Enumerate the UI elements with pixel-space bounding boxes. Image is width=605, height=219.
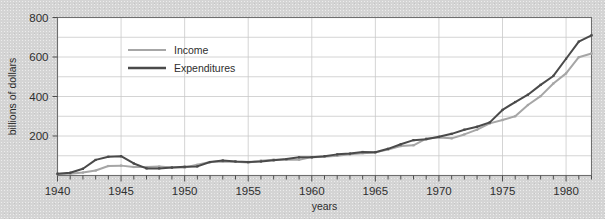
- series-marker-income: [451, 137, 453, 139]
- series-marker-income: [82, 171, 84, 173]
- legend-label-expenditures: Expenditures: [174, 62, 235, 74]
- series-marker-expenditures: [260, 160, 262, 162]
- series-marker-expenditures: [387, 148, 389, 150]
- series-marker-income: [298, 159, 300, 161]
- y-axis-label: billions of dollars: [6, 58, 18, 136]
- series-marker-expenditures: [82, 168, 84, 170]
- y-tick-label: 800: [29, 12, 48, 24]
- series-marker-expenditures: [107, 156, 109, 158]
- series-marker-expenditures: [540, 84, 542, 86]
- series-marker-expenditures: [489, 121, 491, 123]
- series-marker-expenditures: [451, 133, 453, 135]
- series-marker-expenditures: [552, 75, 554, 77]
- series-marker-expenditures: [514, 101, 516, 103]
- series-marker-income: [565, 72, 567, 74]
- series-marker-expenditures: [400, 143, 402, 145]
- series-marker-income: [514, 115, 516, 117]
- series-marker-expenditures: [209, 161, 211, 163]
- series-marker-expenditures: [374, 151, 376, 153]
- series-marker-income: [412, 144, 414, 146]
- series-marker-expenditures: [285, 158, 287, 160]
- x-tick-label: 1970: [426, 185, 452, 197]
- series-marker-expenditures: [578, 40, 580, 42]
- series-marker-expenditures: [171, 167, 173, 169]
- y-tick-label: 600: [29, 51, 48, 63]
- series-marker-expenditures: [323, 155, 325, 157]
- series-marker-income: [133, 166, 135, 168]
- series-marker-expenditures: [590, 34, 592, 36]
- series-marker-expenditures: [438, 136, 440, 138]
- series-marker-expenditures: [336, 153, 338, 155]
- x-axis-label: years: [312, 200, 338, 212]
- series-marker-expenditures: [425, 138, 427, 140]
- series-marker-expenditures: [298, 156, 300, 158]
- series-marker-expenditures: [184, 166, 186, 168]
- x-tick-label: 1965: [363, 185, 389, 197]
- series-marker-income: [527, 104, 529, 106]
- series-marker-expenditures: [133, 162, 135, 164]
- series-marker-income: [540, 95, 542, 97]
- series-marker-expenditures: [311, 156, 313, 158]
- series-marker-income: [463, 133, 465, 135]
- series-marker-expenditures: [476, 126, 478, 128]
- series-marker-income: [501, 119, 503, 121]
- series-marker-expenditures: [463, 129, 465, 131]
- x-tick-label: 1955: [235, 185, 261, 197]
- series-marker-income: [95, 169, 97, 171]
- legend-label-income: Income: [174, 44, 209, 56]
- line-chart-svg: 1940194519501955196019651970197519802004…: [0, 0, 605, 219]
- series-marker-expenditures: [69, 172, 71, 174]
- x-tick-label: 1960: [299, 185, 325, 197]
- series-marker-expenditures: [565, 58, 567, 60]
- series-marker-expenditures: [527, 94, 529, 96]
- series-marker-income: [107, 165, 109, 167]
- series-marker-expenditures: [95, 159, 97, 161]
- series-marker-expenditures: [158, 167, 160, 169]
- series-marker-income: [578, 56, 580, 58]
- series-marker-expenditures: [234, 160, 236, 162]
- x-tick-label: 1940: [45, 185, 71, 197]
- series-marker-expenditures: [145, 167, 147, 169]
- series-marker-income: [120, 165, 122, 167]
- x-tick-label: 1950: [172, 185, 198, 197]
- series-marker-expenditures: [247, 161, 249, 163]
- series-marker-expenditures: [501, 109, 503, 111]
- series-marker-expenditures: [222, 159, 224, 161]
- chart-figure: 1940194519501955196019651970197519802004…: [0, 0, 605, 219]
- x-tick-label: 1975: [490, 185, 516, 197]
- series-marker-expenditures: [56, 173, 58, 175]
- series-marker-expenditures: [349, 152, 351, 154]
- series-marker-expenditures: [120, 155, 122, 157]
- series-marker-income: [552, 82, 554, 84]
- series-marker-expenditures: [362, 151, 364, 153]
- y-tick-label: 200: [29, 130, 48, 142]
- series-marker-expenditures: [196, 165, 198, 167]
- x-tick-label: 1945: [108, 185, 134, 197]
- x-tick-label: 1980: [553, 185, 579, 197]
- series-marker-income: [476, 129, 478, 131]
- series-marker-income: [590, 52, 592, 54]
- series-marker-expenditures: [412, 139, 414, 141]
- y-tick-label: 400: [29, 91, 48, 103]
- series-marker-expenditures: [273, 159, 275, 161]
